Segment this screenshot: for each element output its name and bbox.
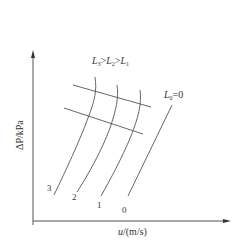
upper-cross-line (73, 85, 151, 107)
curve-1 (101, 90, 141, 196)
y-axis-arrow-icon (31, 50, 35, 58)
cross-lines (64, 85, 151, 134)
x-axis-label: u/(m/s) (118, 226, 147, 238)
axes (31, 50, 231, 225)
curves (54, 77, 172, 196)
curve-label-1: 1 (97, 200, 102, 210)
curve-0-line (128, 105, 172, 196)
lower-cross-line (64, 108, 143, 134)
diagram-figure: L3>L2>L1 L0=0 ΔP/kPa u/(m/s) 3 2 1 0 (0, 0, 245, 245)
curve-3 (54, 77, 96, 195)
x-axis-arrow-icon (223, 219, 231, 223)
y-axis-label: ΔP/kPa (14, 120, 25, 150)
curve-label-0: 0 (122, 205, 127, 215)
length-relation-label: L3>L2>L1 (91, 55, 129, 67)
curve-label-3: 3 (47, 183, 52, 193)
zero-length-label: L0=0 (163, 89, 183, 101)
curve-label-2: 2 (72, 192, 77, 202)
